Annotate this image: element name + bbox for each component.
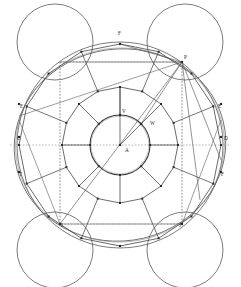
label-right-lower: F xyxy=(221,172,224,177)
diagram-canvas: A V W F P E D F E C T I J xyxy=(0,0,241,287)
label-top-right-corner: P xyxy=(184,55,187,60)
label-bottom-right-corner: J xyxy=(179,223,181,228)
label-left-upper: E xyxy=(20,104,23,109)
label-bottom-left-corner: I xyxy=(61,223,63,228)
label-left-middle: C xyxy=(17,136,20,141)
label-inner-upper-right: W xyxy=(150,121,155,126)
label-right-middle: D xyxy=(224,136,228,141)
geometry-figure xyxy=(0,0,241,287)
label-inner-top: V xyxy=(122,109,126,114)
label-right-upper: E xyxy=(218,104,221,109)
label-left-lower: T xyxy=(19,172,22,177)
label-center: A xyxy=(125,148,129,153)
radius-lines xyxy=(120,87,141,145)
label-top-apex: F xyxy=(118,31,121,36)
